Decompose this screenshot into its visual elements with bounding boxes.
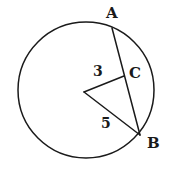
point-label-a: A (106, 6, 118, 21)
main-circle (18, 22, 154, 158)
geometry-figure: A B C 3 5 (0, 0, 170, 170)
point-label-c: C (129, 66, 141, 81)
segment-ob (84, 92, 140, 135)
point-label-b: B (147, 136, 160, 151)
length-label-ob: 5 (101, 116, 111, 130)
segment-oc (84, 76, 124, 92)
length-label-oc: 3 (93, 64, 103, 78)
geometry-canvas (0, 0, 170, 170)
